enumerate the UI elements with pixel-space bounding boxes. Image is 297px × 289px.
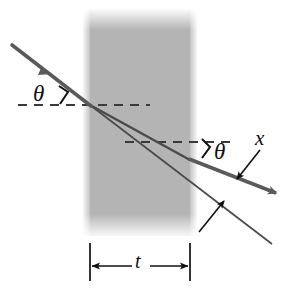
x-displacement-pointer	[237, 150, 260, 179]
incident-ray	[12, 45, 91, 106]
refraction-figure: θ θ x t	[0, 0, 297, 289]
transparent-slab-group	[82, 8, 198, 238]
thickness-label: t	[135, 251, 141, 271]
incident-ray-arrowhead	[33, 60, 52, 75]
slab-body	[90, 8, 190, 236]
slab-top-fade	[82, 8, 198, 30]
lateral-displacement-label: x	[255, 128, 264, 149]
incident-angle-label: θ	[33, 82, 44, 105]
slab-bottom-fade	[82, 214, 198, 238]
lower-ray-pointer	[199, 201, 224, 232]
exit-ray	[189, 159, 276, 193]
exit-angle-label: θ	[214, 140, 225, 163]
slab-left-edge-fade	[82, 8, 92, 236]
figure-canvas	[0, 0, 297, 289]
slab-right-edge-fade	[188, 8, 198, 236]
